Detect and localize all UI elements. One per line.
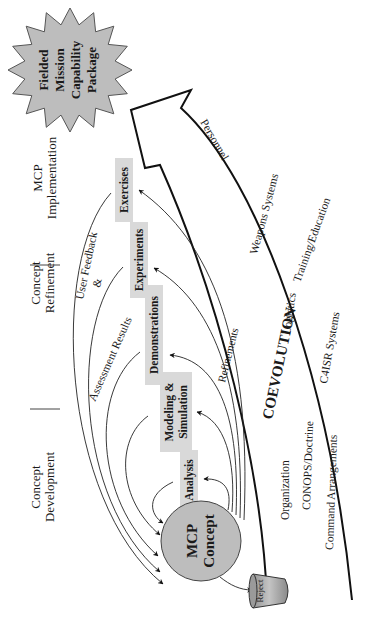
activity-label: Exercises (118, 167, 130, 213)
outcome-line4: Package (84, 47, 99, 93)
feedback-line1: User Feedback (73, 231, 99, 301)
coevolution-item-training: Training/Education (291, 196, 334, 284)
activity-exercises: Exercises (115, 158, 133, 222)
feedback-line2: & (90, 277, 104, 288)
activity-label: Experiments (133, 228, 146, 291)
phase-implementation-line1: MCP (30, 164, 45, 191)
reject-bucket: Reject (249, 574, 288, 608)
outcome-line2: Mission (52, 48, 67, 92)
phase-refinement-line1: Concept (28, 261, 43, 305)
activity-demonstrations: Demonstrations (145, 285, 163, 385)
phase-refinement-line2: Refinement (42, 252, 57, 313)
fielded-mcp-starburst: Fielded Mission Capability Package (8, 8, 132, 132)
activity-label: Analysis (183, 459, 196, 501)
mcp-concept-circle: MCP Concept (161, 501, 241, 581)
phase-labels: MCP Implementation Concept Refinement Co… (28, 136, 60, 522)
feedback-line3: Assessment Results (86, 314, 134, 403)
coevolution-item-organization: Organization (279, 460, 292, 520)
coevolution-arrow (131, 90, 352, 600)
origin-line1: MCP (184, 524, 200, 558)
reject-label: Reject (255, 579, 265, 602)
activity-label: Demonstrations (148, 296, 160, 374)
activity-label-line1: Modeling & (163, 382, 176, 442)
phase-development-line1: Concept (28, 465, 43, 509)
origin-line2: Concept (201, 514, 217, 567)
outcome-line3: Capability (68, 40, 83, 99)
coevolution-item-c4isr: C4ISR Systems (317, 310, 342, 384)
outcome-line1: Fielded (36, 49, 51, 91)
activity-label-line2: Simulation (177, 385, 189, 439)
coevolution-diagram: Fielded Mission Capability Package COEVO… (0, 0, 368, 629)
reject-arrow (220, 577, 252, 590)
activity-modeling-simulation: Modeling & Simulation (160, 372, 192, 452)
phase-development-line2: Development (42, 452, 57, 522)
phase-implementation-line2: Implementation (44, 136, 59, 219)
